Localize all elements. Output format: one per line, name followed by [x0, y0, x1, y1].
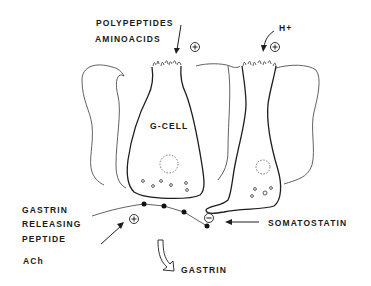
label-grp-line2: RELEASING	[22, 220, 82, 229]
plus-sign-luminal	[191, 43, 200, 52]
g-cell-outline	[127, 66, 204, 198]
plus-sign-neural	[130, 215, 139, 224]
label-h-plus: H+	[279, 24, 292, 33]
arrow-polypeptides	[174, 25, 181, 54]
nerve-fiber	[92, 204, 207, 226]
left-outer-cell	[82, 65, 112, 185]
label-grp-line1: GASTRIN	[22, 206, 68, 215]
d-cell-granules	[251, 187, 273, 198]
nerve-varicosities	[142, 202, 210, 229]
label-ach: ACh	[23, 257, 44, 266]
label-grp-line3: PEPTIDE	[22, 235, 66, 244]
label-g-cell: G-CELL	[150, 122, 188, 131]
minus-sign-somatostatin	[205, 214, 214, 223]
gastrin-release-arrow	[158, 240, 174, 271]
left-inner-cell	[112, 67, 126, 188]
middle-connector-wall	[218, 66, 230, 180]
label-aminoacids: AMINOACIDS	[95, 35, 161, 44]
g-cell-nucleus	[160, 155, 178, 173]
g-cell-granules	[142, 180, 189, 192]
gastrin-regulation-diagram: POLYPEPTIDES AMINOACIDS H+ G-CELL GASTRI…	[0, 0, 371, 286]
label-polypeptides: POLYPEPTIDES	[96, 19, 174, 28]
label-somatostatin: SOMATOSTATIN	[268, 219, 347, 228]
g-cell-microvilli	[153, 61, 181, 66]
right-outer-cell	[276, 65, 319, 184]
d-cell-outline	[206, 66, 281, 213]
arrow-grp-ach	[101, 222, 124, 244]
d-cell-nucleus	[256, 160, 270, 174]
d-cell-microvilli	[243, 61, 276, 66]
label-gastrin: GASTRIN	[181, 266, 227, 275]
middle-connector-cell	[196, 64, 240, 68]
plus-sign-acid	[271, 43, 280, 52]
arrow-somatostatin	[225, 219, 259, 225]
